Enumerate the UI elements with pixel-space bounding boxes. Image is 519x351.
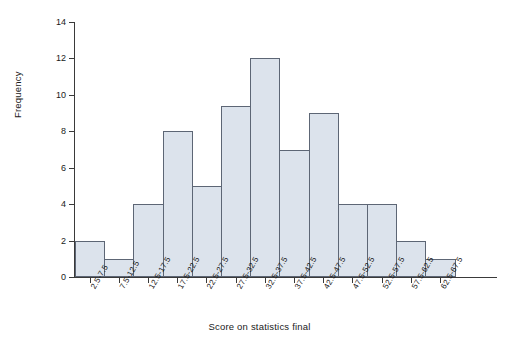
x-axis-title: Score on statistics final xyxy=(0,321,519,332)
histogram-bar xyxy=(221,106,251,277)
y-axis-tick-label: 12 xyxy=(56,54,66,63)
y-axis-tick-label: 14 xyxy=(56,18,66,27)
y-axis-title: Frequency xyxy=(12,71,23,118)
y-axis-tick xyxy=(69,22,74,23)
y-axis-tick xyxy=(69,58,74,59)
y-axis-tick-label: 0 xyxy=(61,273,66,282)
y-axis-tick xyxy=(69,277,74,278)
y-axis-tick xyxy=(69,168,74,169)
y-axis-tick xyxy=(69,131,74,132)
x-axis-line xyxy=(74,277,497,278)
histogram-bar xyxy=(309,113,339,277)
histogram-bar xyxy=(250,58,280,277)
y-axis-tick-label: 8 xyxy=(61,127,66,136)
y-axis-tick xyxy=(69,95,74,96)
y-axis-tick-label: 2 xyxy=(61,236,66,245)
y-axis-tick xyxy=(69,241,74,242)
y-axis-tick-label: 10 xyxy=(56,90,66,99)
histogram-figure: 02468101214 2.5-7.57.5-12.512.5-17.517.5… xyxy=(0,0,519,351)
y-axis-tick-label: 6 xyxy=(61,163,66,172)
plot-area: 02468101214 2.5-7.57.5-12.512.5-17.517.5… xyxy=(0,0,519,351)
y-axis-tick-label: 4 xyxy=(61,200,66,209)
y-axis-tick xyxy=(69,204,74,205)
